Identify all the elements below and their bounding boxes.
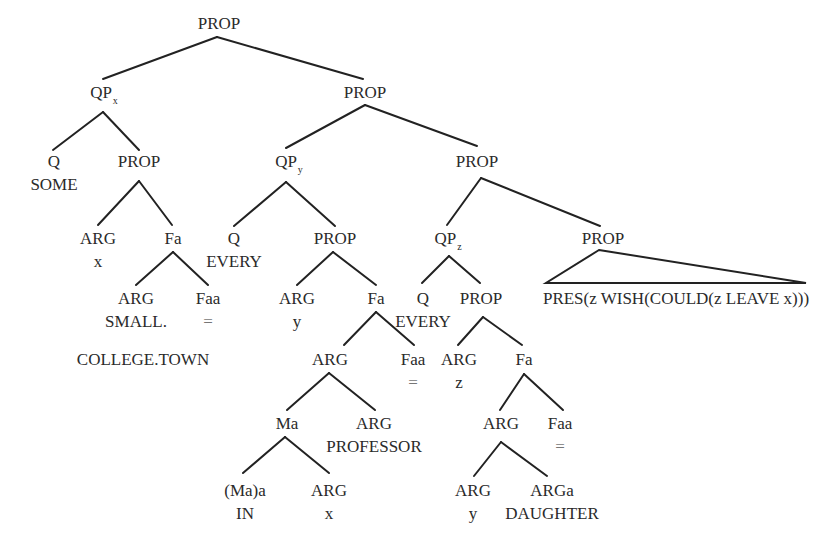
node-label: ARG (311, 481, 347, 501)
node-label: ARG (441, 350, 477, 370)
node-arg-y2: ARG y (455, 481, 491, 524)
node-word: = (548, 437, 573, 457)
node-arg-x2: ARG x (311, 481, 347, 524)
node-label: ARG (326, 414, 421, 434)
node-word: IN (224, 504, 266, 524)
node-label: PROP (460, 289, 503, 308)
node-label: PROP (582, 229, 625, 248)
node-subscript: x (113, 95, 118, 106)
node-faa-y: Faa = (401, 350, 426, 393)
node-label: COLLEGE.TOWN (77, 350, 209, 369)
node-word: x (80, 252, 116, 272)
node-subscript: z (457, 241, 461, 252)
node-label: PROP (118, 152, 161, 171)
node-label: Q (30, 152, 77, 172)
node-label: ARG (483, 414, 519, 433)
node-word: EVERY (395, 312, 451, 332)
node-word: = (401, 373, 426, 393)
node-word: SOME (30, 175, 77, 195)
node-arg-y: ARG y (279, 289, 315, 332)
tree-branches (0, 0, 835, 543)
node-pres-clause: PRES(z WISH(COULD(z LEAVE x))) (543, 289, 809, 309)
node-arg-prof: ARG (312, 350, 348, 370)
node-faa-x: Faa = (196, 289, 221, 332)
node-word: PROFESSOR (326, 437, 421, 457)
node-word: z (441, 373, 477, 393)
node-label: Q (206, 229, 262, 249)
node-prop-z: PROP (460, 289, 503, 309)
node-q-some: Q SOME (30, 152, 77, 195)
node-arga-daughter: ARGa DAUGHTER (505, 481, 599, 524)
node-q-every-y: Q EVERY (206, 229, 262, 272)
node-label: Fa (516, 350, 533, 369)
node-word: EVERY (206, 252, 262, 272)
node-qpx: QPx (90, 83, 118, 105)
node-label: Faa (548, 414, 573, 434)
node-arg-dau: ARG (483, 414, 519, 434)
node-prop-y: PROP (314, 229, 357, 249)
node-label: Faa (196, 289, 221, 309)
node-label: QP (434, 229, 456, 248)
node-label: PROP (198, 14, 241, 33)
node-prop1: PROP (344, 83, 387, 103)
node-arg-professor: ARG PROFESSOR (326, 414, 421, 457)
node-word: y (279, 312, 315, 332)
node-label: (Ma)a (224, 481, 266, 501)
node-label: Q (395, 289, 451, 309)
node-label: PROP (344, 83, 387, 102)
node-word: x (311, 504, 347, 524)
node-word: DAUGHTER (505, 504, 599, 524)
node-label: ARG (279, 289, 315, 309)
node-qpy: QPy (275, 152, 303, 174)
node-ma: Ma (276, 414, 299, 434)
node-label: PROP (456, 152, 499, 171)
node-faa-z: Faa = (548, 414, 573, 457)
node-college-town: COLLEGE.TOWN (77, 350, 209, 370)
node-label: ARG (80, 229, 116, 249)
node-arg-z: ARG z (441, 350, 477, 393)
node-label: ARGa (505, 481, 599, 501)
node-word: = (196, 312, 221, 332)
node-q-every-z: Q EVERY (395, 289, 451, 332)
node-prop3: PROP (582, 229, 625, 249)
node-fa-y: Fa (368, 289, 385, 309)
node-arg-small: ARG SMALL. (105, 289, 167, 332)
node-label: QP (275, 152, 297, 171)
node-word: y (455, 504, 491, 524)
node-label: Ma (276, 414, 299, 433)
node-word: SMALL. (105, 312, 167, 332)
node-prop-x: PROP (118, 152, 161, 172)
node-fa-z: Fa (516, 350, 533, 370)
node-label: PROP (314, 229, 357, 248)
node-label: Fa (368, 289, 385, 308)
node-maa-in: (Ma)a IN (224, 481, 266, 524)
node-label: ARG (105, 289, 167, 309)
node-label: ARG (455, 481, 491, 501)
node-label: Faa (401, 350, 426, 370)
node-label: QP (90, 83, 112, 102)
node-root-prop: PROP (198, 14, 241, 34)
node-qpz: QPz (434, 229, 461, 251)
node-arg-x: ARG x (80, 229, 116, 272)
node-subscript: y (298, 164, 303, 175)
node-fa-x: Fa (165, 229, 182, 249)
node-label: PRES(z WISH(COULD(z LEAVE x))) (543, 289, 809, 308)
node-prop2: PROP (456, 152, 499, 172)
node-label: ARG (312, 350, 348, 369)
node-label: Fa (165, 229, 182, 248)
